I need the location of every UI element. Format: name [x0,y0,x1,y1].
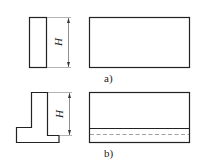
front-view-a [90,18,190,68]
front-view-b [90,93,190,143]
technical-drawing: H a) H b) [0,0,205,164]
figure-label-b: b) [104,147,114,160]
figure-b: H b) [17,93,190,161]
dimension-label-b: H [53,109,65,119]
figure-a: H a) [30,18,190,86]
figure-label-a: a) [104,72,113,85]
arrow-up-icon [68,93,71,98]
side-view-a [30,18,47,68]
arrow-down-icon [68,130,71,135]
arrow-up-icon [67,18,70,23]
dimension-label-a: H [52,37,64,47]
arrow-down-icon [67,62,70,67]
